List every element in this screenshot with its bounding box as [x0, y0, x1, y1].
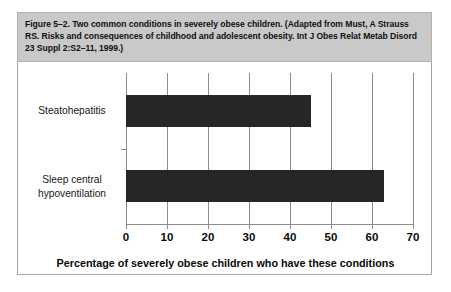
chart-plot-frame — [17, 62, 432, 275]
grid-line — [413, 73, 414, 224]
x-axis-line — [126, 224, 414, 225]
x-axis-tick-label: 40 — [284, 231, 297, 243]
figure-caption-text: Figure 5–2. Two common conditions in sev… — [25, 18, 424, 54]
figure-caption-box: Figure 5–2. Two common conditions in sev… — [17, 12, 432, 62]
x-axis-tick — [290, 224, 291, 229]
x-axis-tick — [413, 224, 414, 229]
x-axis-tick-label: 60 — [366, 231, 379, 243]
x-axis-tick-label: 30 — [243, 231, 256, 243]
x-axis-tick — [249, 224, 250, 229]
x-axis-tick — [372, 224, 373, 229]
x-axis-tick-label: 10 — [161, 231, 174, 243]
category-label: Steatohepatitis — [38, 104, 105, 118]
x-axis-tick — [126, 224, 127, 229]
x-axis-tick — [167, 224, 168, 229]
x-axis-title: Percentage of severely obese children wh… — [0, 257, 451, 269]
y-axis-tick — [121, 149, 126, 150]
x-axis-tick — [208, 224, 209, 229]
bar — [126, 170, 384, 202]
figure-container: Figure 5–2. Two common conditions in sev… — [0, 0, 451, 292]
bar — [126, 95, 311, 127]
x-axis-tick-label: 20 — [202, 231, 215, 243]
x-axis-tick-label: 0 — [123, 231, 129, 243]
category-label: Sleep central hypoventilation — [38, 173, 106, 200]
x-axis-tick — [331, 224, 332, 229]
x-axis-tick-label: 50 — [325, 231, 338, 243]
x-axis-tick-label: 70 — [407, 231, 420, 243]
